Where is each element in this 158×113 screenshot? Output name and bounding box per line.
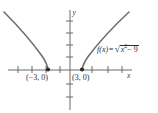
right-intercept-label: (3, 0) — [72, 74, 89, 82]
y-axis-label: y — [72, 8, 77, 17]
point-dot-left-intercept — [46, 67, 50, 71]
function-name: f(x) — [97, 45, 108, 54]
radical-sign-icon: √ — [115, 45, 120, 55]
radicand-constant: − 9 — [127, 45, 138, 54]
left-intercept-label: (−3, 0) — [26, 74, 48, 82]
radical-expression: √x2− 9 — [115, 45, 139, 54]
curve-left-branch — [4, 12, 48, 70]
figure-container: y x (−3, 0) (3, 0) f(x)=√x2− 9 — [0, 0, 158, 113]
plot-area: y x — [0, 0, 158, 113]
function-equation-label: f(x)=√x2− 9 — [97, 45, 139, 54]
radicand: x2− 9 — [120, 45, 139, 54]
point-dot-right-intercept — [80, 67, 84, 71]
x-axis-label: x — [126, 71, 131, 80]
curve-right-branch — [82, 12, 129, 70]
